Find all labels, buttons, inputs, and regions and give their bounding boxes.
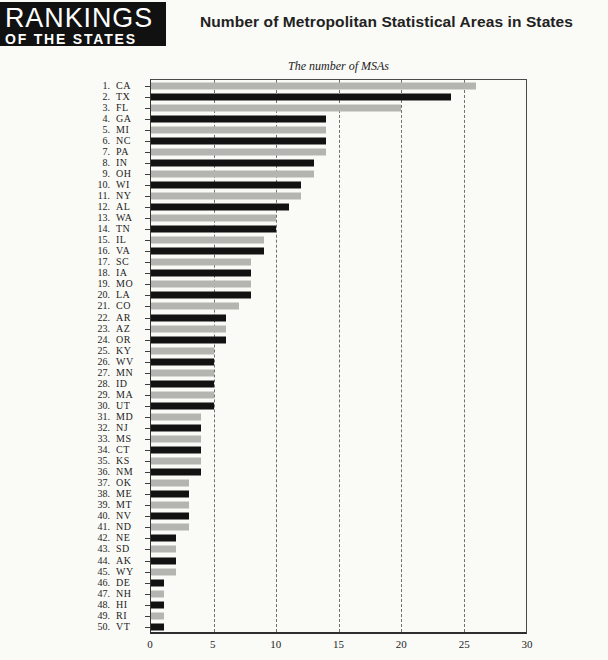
- state-label: 21.CO: [89, 301, 142, 311]
- x-tick-label: 20: [396, 638, 407, 650]
- y-axis-tick: [145, 196, 150, 197]
- y-axis-tick: [145, 494, 150, 495]
- state-abbr: NY: [116, 191, 142, 201]
- msa-bar: [151, 391, 214, 398]
- bar-row: 49.RI: [151, 610, 526, 621]
- msa-bar: [151, 502, 189, 509]
- msa-bar: [151, 579, 164, 586]
- state-label: 15.IL: [89, 235, 142, 245]
- msa-bar: [151, 148, 326, 155]
- bar-row: 8.IN: [151, 157, 526, 168]
- y-axis-tick: [145, 251, 150, 252]
- state-abbr: NC: [116, 136, 142, 146]
- state-abbr: VA: [116, 246, 142, 256]
- x-tick-label: 25: [459, 638, 470, 650]
- bar-row: 48.HI: [151, 599, 526, 610]
- state-rank: 5.: [89, 125, 110, 135]
- state-abbr: AK: [116, 556, 142, 566]
- msa-bar: [151, 491, 189, 498]
- state-abbr: SD: [116, 544, 142, 554]
- state-label: 39.MT: [89, 500, 142, 510]
- bar-row: 34.CT: [151, 445, 526, 456]
- y-axis-tick: [145, 229, 150, 230]
- y-axis-tick: [145, 318, 150, 319]
- state-rank: 37.: [89, 478, 110, 488]
- state-rank: 20.: [89, 290, 110, 300]
- state-rank: 33.: [89, 434, 110, 444]
- bar-row: 33.MS: [151, 434, 526, 445]
- bar-row: 44.AK: [151, 555, 526, 566]
- state-label: 1.CA: [89, 81, 142, 91]
- msa-bar: [151, 82, 476, 89]
- bar-row: 6.NC: [151, 135, 526, 146]
- bar-row: 4.GA: [151, 113, 526, 124]
- y-axis-tick: [145, 218, 150, 219]
- state-label: 10.WI: [89, 180, 142, 190]
- msa-bar: [151, 458, 201, 465]
- state-rank: 1.: [89, 81, 110, 91]
- msa-bar: [151, 369, 214, 376]
- y-axis-tick: [145, 130, 150, 131]
- msa-bar: [151, 590, 164, 597]
- bar-row: 24.OR: [151, 334, 526, 345]
- msa-bar: [151, 314, 226, 321]
- bar-row: 3.FL: [151, 102, 526, 113]
- state-rank: 43.: [89, 544, 110, 554]
- state-label: 7.PA: [89, 147, 142, 157]
- state-label: 16.VA: [89, 246, 142, 256]
- state-abbr: OR: [116, 335, 142, 345]
- state-label: 44.AK: [89, 556, 142, 566]
- state-abbr: WV: [116, 357, 142, 367]
- msa-bar: [151, 402, 214, 409]
- state-abbr: MA: [116, 390, 142, 400]
- state-label: 3.FL: [89, 103, 142, 113]
- bar-row: 31.MD: [151, 411, 526, 422]
- state-label: 25.KY: [89, 346, 142, 356]
- y-axis-tick: [145, 362, 150, 363]
- state-abbr: DE: [116, 578, 142, 588]
- msa-bar: [151, 215, 276, 222]
- y-axis-tick: [145, 516, 150, 517]
- msa-bar: [151, 413, 201, 420]
- state-label: 31.MD: [89, 412, 142, 422]
- state-label: 32.NJ: [89, 423, 142, 433]
- state-abbr: KY: [116, 346, 142, 356]
- bar-rows: 1.CA2.TX3.FL4.GA5.MI6.NC7.PA8.IN9.OH10.W…: [151, 80, 526, 632]
- state-label: 27.MN: [89, 368, 142, 378]
- logo-line1: RANKINGS: [5, 4, 160, 32]
- bar-row: 30.UT: [151, 400, 526, 411]
- state-label: 13.WA: [89, 213, 142, 223]
- state-rank: 29.: [89, 390, 110, 400]
- state-rank: 45.: [89, 567, 110, 577]
- state-abbr: IL: [116, 235, 142, 245]
- state-rank: 3.: [89, 103, 110, 113]
- msa-bar: [151, 546, 176, 553]
- y-axis-tick: [145, 97, 150, 98]
- msa-bar: [151, 568, 176, 575]
- msa-bar: [151, 303, 239, 310]
- bar-row: 38.ME: [151, 489, 526, 500]
- state-rank: 24.: [89, 335, 110, 345]
- state-abbr: IA: [116, 268, 142, 278]
- msa-bar: [151, 259, 251, 266]
- state-rank: 11.: [89, 191, 110, 201]
- y-axis-tick: [145, 384, 150, 385]
- y-axis-tick: [145, 185, 150, 186]
- state-rank: 44.: [89, 556, 110, 566]
- bar-row: 35.KS: [151, 456, 526, 467]
- state-abbr: NV: [116, 511, 142, 521]
- y-axis-tick: [145, 152, 150, 153]
- y-axis-tick: [145, 406, 150, 407]
- state-rank: 4.: [89, 114, 110, 124]
- x-tick-label: 10: [270, 638, 281, 650]
- bar-row: 17.SC: [151, 257, 526, 268]
- y-axis-tick: [145, 295, 150, 296]
- y-axis-tick: [145, 583, 150, 584]
- y-axis-tick: [145, 240, 150, 241]
- bar-row: 45.WY: [151, 566, 526, 577]
- state-label: 49.RI: [89, 611, 142, 621]
- state-rank: 31.: [89, 412, 110, 422]
- state-rank: 40.: [89, 511, 110, 521]
- bar-row: 46.DE: [151, 577, 526, 588]
- bar-row: 50.VT: [151, 621, 526, 632]
